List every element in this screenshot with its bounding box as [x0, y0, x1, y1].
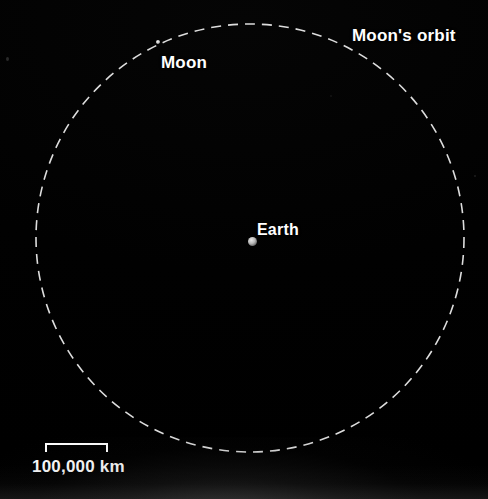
moons-orbit-label: Moon's orbit: [352, 26, 456, 46]
earth-label: Earth: [257, 221, 299, 239]
scale-bar-layer: [0, 0, 488, 499]
moon-label: Moon: [161, 53, 207, 73]
moon-orbit-diagram: Moon's orbit Moon Earth 100,000 km: [0, 0, 488, 499]
scale-bar-label: 100,000 km: [32, 457, 125, 477]
scale-bar: [45, 444, 108, 452]
